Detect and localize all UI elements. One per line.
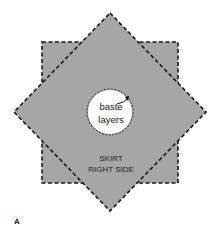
center-label-line1: baste: [99, 101, 122, 112]
skirt-diagram: baste layers SKIRT RIGHT SIDE A: [0, 0, 218, 234]
skirt-label-line1: SKIRT: [99, 154, 123, 163]
center-label-line2: layers: [98, 114, 124, 125]
skirt-label-line2: RIGHT SIDE: [88, 165, 134, 174]
waist-hole: [88, 90, 132, 134]
panel-label: A: [14, 217, 20, 226]
